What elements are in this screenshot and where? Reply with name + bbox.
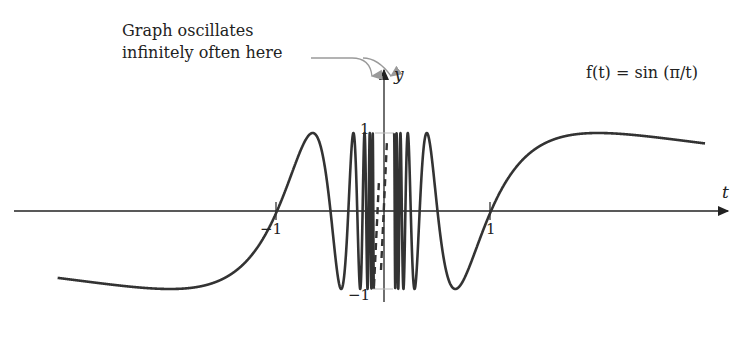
tick-label-pos1: 1: [486, 220, 496, 238]
function-label: f(t) = sin (π/t): [586, 63, 698, 82]
y-axis-label: y: [394, 64, 404, 84]
annotation-arrows: [311, 58, 391, 76]
annotation-line-2: infinitely often here: [122, 42, 282, 64]
dashed-oscillation-indicator: [374, 140, 387, 286]
tick-label-y1: 1: [360, 120, 370, 138]
function-graph: [0, 0, 752, 354]
tick-label-yneg1: −1: [348, 286, 370, 304]
tick-label-neg1: −1: [260, 220, 282, 238]
annotation-line-1: Graph oscillates: [122, 20, 282, 42]
oscillation-annotation: Graph oscillates infinitely often here: [122, 20, 282, 64]
t-axis-label: t: [722, 182, 729, 202]
